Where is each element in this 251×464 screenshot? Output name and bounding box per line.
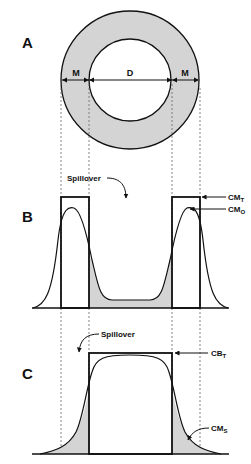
panel-a-label: A xyxy=(22,34,33,51)
label-m-left: M xyxy=(72,68,80,78)
spillover-label-b: Spillover xyxy=(67,174,101,183)
cb-observed-curve xyxy=(40,355,221,454)
label-d: D xyxy=(127,68,134,78)
cm-true-left xyxy=(61,197,89,308)
cbt-label: CBT xyxy=(211,349,227,359)
panel-b: B Spillover CMT CMO xyxy=(22,174,245,308)
panel-a: A M D M xyxy=(22,11,199,149)
label-m-right: M xyxy=(181,68,189,78)
cm-observed-curve xyxy=(33,208,228,308)
cmo-label: CMO xyxy=(228,205,245,215)
cmt-label: CMT xyxy=(228,193,244,203)
cm-true-right xyxy=(172,197,200,308)
spillover-diagram: A M D M B Spillover CMT CMO C xyxy=(0,0,251,464)
cb-true-box xyxy=(89,353,172,454)
spillover-label-c: Spillover xyxy=(101,330,135,339)
cms-label: CMS xyxy=(211,424,227,434)
cms-arrow xyxy=(188,428,209,440)
panel-c: C Spillover CBT CMS xyxy=(22,330,229,454)
panel-c-label: C xyxy=(22,365,33,382)
panel-b-label: B xyxy=(22,208,33,225)
spillover-arrow-b xyxy=(107,178,126,198)
